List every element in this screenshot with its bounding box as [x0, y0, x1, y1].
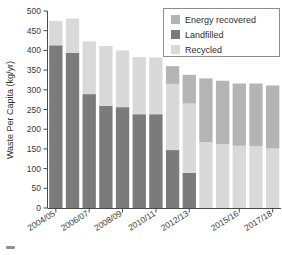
legend-label: Energy recovered [185, 15, 256, 25]
bar-segment [199, 142, 212, 208]
y-tick-label: 500 [27, 6, 41, 16]
chart-legend: Energy recoveredLandfilledRecycled [164, 9, 280, 57]
bar-group [166, 66, 179, 208]
y-tick-label: 100 [27, 164, 41, 174]
y-axis-title: Waste Per Capita (kg/yr) [5, 61, 15, 159]
y-tick-label: 0 [36, 203, 41, 213]
bar-group [133, 57, 146, 208]
bar-segment [116, 50, 129, 107]
bar-group [249, 84, 262, 209]
legend-swatch [171, 15, 180, 24]
x-tick-label: 2008/09 [92, 208, 124, 233]
bar-segment [199, 78, 212, 142]
bar-group [149, 57, 162, 208]
bar-segment [49, 21, 62, 45]
y-tick-label: 400 [27, 45, 41, 55]
bar-segment [183, 173, 196, 208]
y-tick-label: 450 [27, 26, 41, 36]
corner-artifact-mark [6, 246, 15, 249]
x-tick-label: 2004/05 [26, 208, 58, 233]
chart-container: Waste Per Capita (kg/yr) 050100150200250… [0, 0, 282, 255]
bar-group [266, 85, 279, 208]
bar-group [66, 18, 79, 208]
bar-segment [66, 53, 79, 208]
waste-per-capita-stacked-bar-chart: Waste Per Capita (kg/yr) 050100150200250… [0, 0, 282, 255]
y-axis-ticks: 050100150200250300350400450500 [27, 6, 48, 213]
bar-segment [233, 146, 246, 208]
x-axis-ticks: 2004/052006/072008/092010/112012/132015/… [26, 208, 274, 233]
x-tick-label: 2010/11 [126, 208, 157, 233]
legend-label: Recycled [185, 45, 222, 55]
bar-segment [133, 57, 146, 114]
bar-segment [233, 84, 246, 146]
legend-swatch [171, 45, 180, 54]
y-axis-title-label: Waste Per Capita (kg/yr) [5, 61, 15, 159]
bar-segment [133, 114, 146, 208]
bar-group [199, 78, 212, 208]
bar-group [216, 81, 229, 208]
bar-segment [149, 114, 162, 208]
x-tick-label: 2015/16 [209, 208, 241, 233]
y-tick-label: 150 [27, 144, 41, 154]
bar-segment [183, 75, 196, 104]
bar-segment [249, 84, 262, 147]
bar-group [183, 75, 196, 208]
legend-swatch [171, 30, 180, 39]
bar-segment [166, 66, 179, 84]
bar-segment [266, 149, 279, 208]
y-tick-label: 300 [27, 85, 41, 95]
bar-group [116, 50, 129, 208]
bar-segment [266, 85, 279, 148]
bar-segment [183, 104, 196, 173]
bar-segment [166, 150, 179, 208]
y-tick-label: 200 [27, 124, 41, 134]
y-tick-label: 350 [27, 65, 41, 75]
legend-label: Landfilled [185, 30, 224, 40]
bar-group [99, 46, 112, 208]
y-tick-label: 50 [32, 183, 42, 193]
bar-group [233, 84, 246, 209]
y-tick-label: 250 [27, 105, 41, 115]
x-tick-label: 2012/13 [159, 208, 191, 233]
bar-group [83, 41, 96, 208]
bar-segment [216, 81, 229, 144]
bar-segment [116, 107, 129, 208]
bar-segment [149, 57, 162, 114]
bar-segment [66, 18, 79, 52]
bar-segment [99, 106, 112, 208]
bar-segment [249, 146, 262, 208]
bar-segment [166, 84, 179, 150]
bar-segment [99, 46, 112, 106]
x-tick-label: 2006/07 [59, 208, 91, 233]
bar-segment [49, 45, 62, 208]
bar-segment [83, 94, 96, 208]
bar-segment [216, 144, 229, 208]
bar-segment [83, 41, 96, 94]
bar-group [49, 21, 62, 208]
x-tick-label: 2017/18 [242, 208, 274, 233]
